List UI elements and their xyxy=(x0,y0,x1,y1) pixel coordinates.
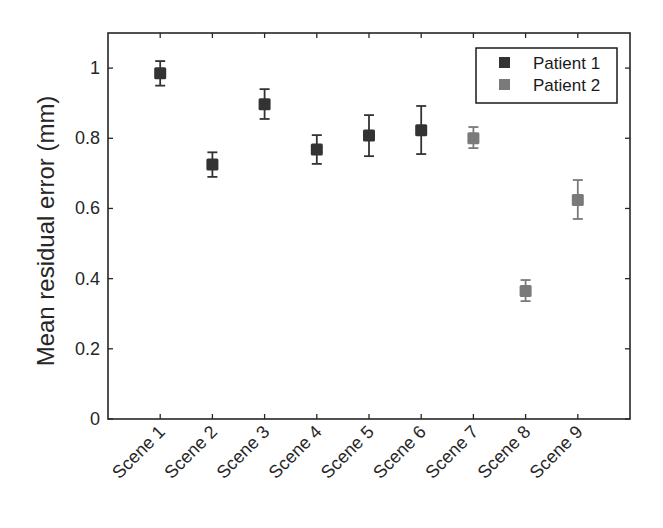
data-point xyxy=(206,152,218,177)
marker-square xyxy=(415,124,427,136)
marker-square xyxy=(520,285,532,297)
data-point xyxy=(311,135,323,164)
marker-square xyxy=(467,132,479,144)
chart: 00.20.40.60.81 Scene 1Scene 2Scene 3Scen… xyxy=(0,0,663,528)
data-point xyxy=(415,106,427,154)
data-point xyxy=(154,61,166,86)
y-tick-label: 0 xyxy=(90,409,100,429)
x-tick-label: Scene 7 xyxy=(421,422,482,483)
data-point xyxy=(572,180,584,219)
marker-square xyxy=(206,159,218,171)
legend-marker-patient-2 xyxy=(499,79,510,90)
x-tick-label: Scene 6 xyxy=(369,422,430,483)
x-tick-label: Scene 9 xyxy=(526,422,587,483)
data-point xyxy=(259,89,271,119)
data-point xyxy=(467,127,479,148)
y-tick-label: 0.8 xyxy=(75,128,100,148)
y-tick-label: 0.6 xyxy=(75,198,100,218)
marker-square xyxy=(259,98,271,110)
y-tick-label: 1 xyxy=(90,58,100,78)
marker-square xyxy=(572,194,584,206)
legend-label-patient-2: Patient 2 xyxy=(533,76,600,95)
x-tick-label: Scene 1 xyxy=(108,422,169,483)
x-tick-label: Scene 2 xyxy=(160,422,221,483)
x-tick-label: Scene 8 xyxy=(474,422,535,483)
y-axis-title: Mean residual error (mm) xyxy=(32,96,59,367)
x-tick-label: Scene 3 xyxy=(213,422,274,483)
x-tick-label: Scene 5 xyxy=(317,422,378,483)
data-point xyxy=(520,280,532,301)
x-tick-label: Scene 4 xyxy=(265,422,326,483)
marker-square xyxy=(154,67,166,79)
data-point xyxy=(363,115,375,156)
y-tick-label: 0.4 xyxy=(75,269,100,289)
legend-marker-patient-1 xyxy=(499,57,510,68)
marker-square xyxy=(363,129,375,141)
y-tick-label: 0.2 xyxy=(75,339,100,359)
legend: Patient 1 Patient 2 xyxy=(476,48,617,103)
legend-label-patient-1: Patient 1 xyxy=(533,54,600,73)
marker-square xyxy=(311,144,323,156)
y-axis: 00.20.40.60.81 xyxy=(75,58,630,429)
